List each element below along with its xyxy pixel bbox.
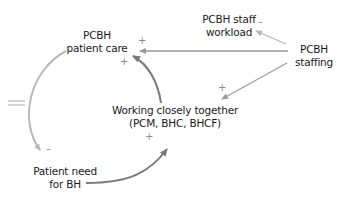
node-working-closely-together: Working closely together (PCM, BHC, BHCF… bbox=[100, 104, 250, 130]
node-label-line2: workload bbox=[194, 26, 264, 39]
node-label-line1: PCBH bbox=[286, 43, 342, 56]
node-label-line2: (PCM, BHC, BHCF) bbox=[100, 117, 250, 130]
node-label-line1: Working closely together bbox=[100, 104, 250, 117]
arrow-staffing-to-working-together bbox=[222, 63, 287, 99]
node-label-line2: patient care bbox=[60, 42, 134, 55]
polarity-sign-workload: – bbox=[258, 17, 263, 27]
node-label-line2: staffing bbox=[286, 56, 342, 69]
node-label-line1: PCBH bbox=[60, 29, 134, 42]
node-label-line2: for BH bbox=[28, 178, 102, 191]
polarity-sign-care-from-staffing: + bbox=[138, 36, 146, 46]
arrow-patient-care-to-need bbox=[29, 51, 66, 150]
polarity-sign-care-from-working: + bbox=[120, 57, 128, 67]
node-pcbh-staffing: PCBH staffing bbox=[286, 43, 342, 69]
arrow-working-to-patient-care bbox=[133, 56, 161, 103]
polarity-sign-working-from-need: + bbox=[145, 132, 153, 142]
node-pcbh-staff-workload: PCBH staff workload bbox=[194, 13, 264, 39]
node-label-line1: PCBH staff bbox=[194, 13, 264, 26]
node-pcbh-patient-care: PCBH patient care bbox=[60, 29, 134, 55]
causal-loop-diagram: PCBH patient care PCBH staff workload PC… bbox=[0, 0, 345, 197]
node-patient-need-for-bh: Patient need for BH bbox=[28, 165, 102, 191]
node-label-line1: Patient need bbox=[28, 165, 102, 178]
polarity-sign-need-from-care: – bbox=[46, 144, 51, 154]
polarity-sign-working-from-staffing: + bbox=[218, 83, 226, 93]
